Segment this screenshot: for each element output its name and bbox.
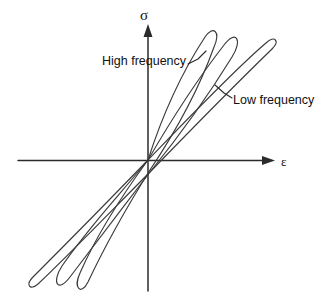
plot-canvas	[0, 0, 320, 299]
horizontal-axis-arrowhead	[262, 156, 275, 165]
epsilon-axis-label: ε	[281, 155, 286, 168]
vertical-axis-arrowhead	[144, 24, 153, 37]
hysteresis-figure: σ ε High frequency Low frequency	[0, 0, 320, 299]
high-frequency-leader-line	[188, 51, 206, 64]
low-frequency-annotation-label: Low frequency	[233, 94, 314, 107]
high-frequency-annotation-label: High frequency	[102, 55, 186, 68]
horizontal-axis	[18, 156, 275, 165]
sigma-axis-label: σ	[140, 8, 148, 23]
loop-low-frequency	[29, 39, 276, 287]
